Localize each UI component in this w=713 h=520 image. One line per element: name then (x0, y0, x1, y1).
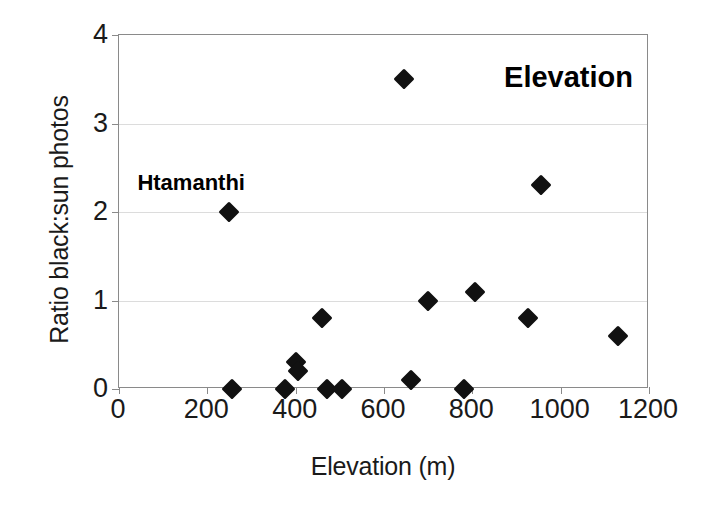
y-tick-mark-3 (112, 124, 119, 125)
x-tick-label-1200: 1200 (603, 396, 693, 423)
x-tick-label-800: 800 (426, 396, 516, 423)
data-point (393, 69, 414, 90)
data-point-annotation-htamanthi: Htamanthi (137, 170, 245, 196)
y-tick-mark-0 (112, 389, 119, 390)
x-tick-mark-400 (296, 387, 297, 394)
y-tick-mark-1 (112, 301, 119, 302)
x-axis-tick-labels: 020040060080010001200 (118, 396, 648, 436)
x-tick-label-400: 400 (250, 396, 340, 423)
gridline-y-1 (119, 301, 647, 302)
x-tick-label-1000: 1000 (515, 396, 605, 423)
data-point (400, 370, 421, 391)
y-tick-label-2: 2 (74, 198, 108, 225)
y-tick-mark-4 (112, 35, 119, 36)
gridline-y-2 (119, 212, 647, 213)
y-tick-mark-2 (112, 212, 119, 213)
x-tick-label-0: 0 (73, 396, 163, 423)
y-tick-label-4: 4 (74, 21, 108, 48)
data-point (530, 175, 551, 196)
gridline-y-3 (119, 124, 647, 125)
x-tick-mark-600 (384, 387, 385, 394)
x-tick-mark-1000 (561, 387, 562, 394)
data-point (464, 281, 485, 302)
y-axis-tick-labels: 01234 (60, 0, 108, 520)
data-point (312, 308, 333, 329)
data-point (517, 308, 538, 329)
x-tick-mark-200 (207, 387, 208, 394)
data-point (219, 201, 240, 222)
plot-area: Elevation Htamanthi (118, 34, 648, 388)
x-tick-mark-0 (119, 387, 120, 394)
x-tick-mark-1200 (649, 387, 650, 394)
scatter-chart-figure: Ratio black:sun photos 01234 Elevation H… (0, 0, 713, 520)
chart-title: Elevation (504, 61, 633, 94)
x-tick-label-600: 600 (338, 396, 428, 423)
x-tick-label-200: 200 (161, 396, 251, 423)
data-point (418, 290, 439, 311)
data-point (607, 325, 628, 346)
y-tick-label-3: 3 (74, 110, 108, 137)
x-axis-label: Elevation (m) (118, 452, 648, 481)
y-tick-label-1: 1 (74, 287, 108, 314)
